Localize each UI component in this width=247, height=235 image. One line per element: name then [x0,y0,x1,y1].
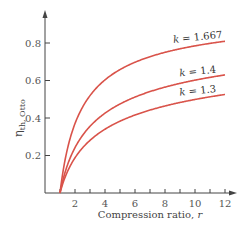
x-tick-label: 10 [189,198,202,209]
svg-text:ηth, Otto: ηth, Otto [12,99,27,137]
curve-label: k = 1.4 [179,64,217,79]
curve-label: k = 1.3 [179,83,217,98]
curve-k-1-3 [60,94,225,193]
x-axis: 24681012 [45,189,237,209]
curves [60,41,225,193]
y-ticks: 0.20.40.60.8 [25,38,50,162]
y-tick-label: 0.8 [25,38,41,49]
x-axis-arrow-icon [229,191,237,196]
x-ticks: 24681012 [60,189,231,209]
x-tick-label: 4 [102,198,108,209]
y-axis: 0.20.40.60.8 [25,10,50,193]
y-tick-label: 0.4 [25,113,41,124]
y-tick-label: 0.2 [25,150,41,161]
x-axis-title: Compression ratio, r [98,209,204,220]
y-axis-arrow-icon [43,10,48,18]
y-axis-title: ηth, Otto [12,99,27,137]
x-tick-label: 2 [72,198,78,209]
x-tick-label: 6 [132,198,138,209]
curve-labels: k = 1.667k = 1.4k = 1.3 [172,29,222,98]
x-tick-label: 8 [162,198,168,209]
otto-efficiency-chart: 0.20.40.60.8 24681012 Compression ratio,… [0,0,247,235]
x-tick-label: 12 [219,198,232,209]
y-tick-label: 0.6 [25,75,41,86]
curve-k-1-667 [60,41,225,193]
